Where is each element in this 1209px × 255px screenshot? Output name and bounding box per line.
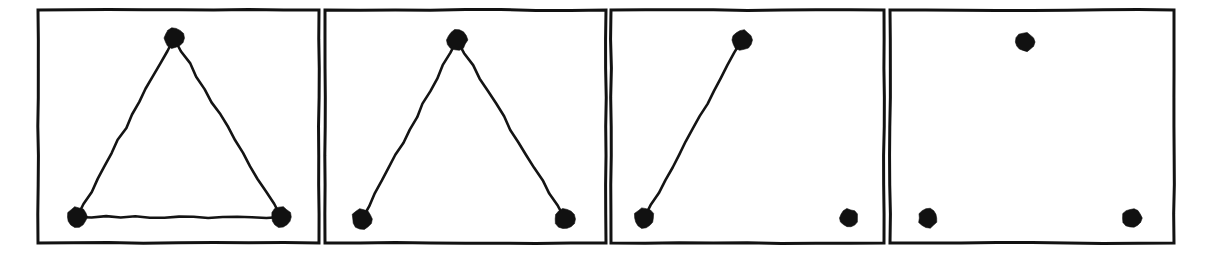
panel-3-single-edge — [611, 10, 885, 244]
graph-sequence-figure — [0, 0, 1209, 255]
panel-1-triangle — [38, 10, 319, 244]
figure-canvas — [0, 0, 1209, 255]
panel-2-path — [325, 10, 606, 244]
panel-4-empty — [890, 10, 1175, 244]
